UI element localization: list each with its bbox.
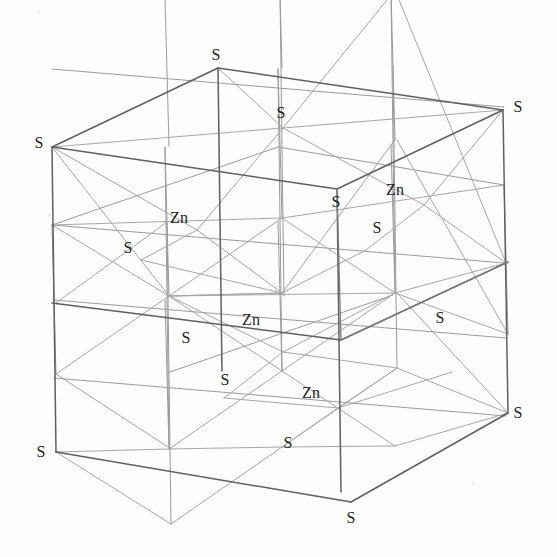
paper-speck — [130, 20, 132, 22]
paper-speck — [415, 437, 417, 439]
atom-label-s-mid-front: S — [181, 330, 190, 346]
atom-label-zn-upper-right: Zn — [386, 182, 404, 198]
atom-label-s-mid-right: S — [435, 310, 444, 326]
atom-label-s-lower-left: S — [220, 372, 229, 388]
atom-label-s-top-center: S — [276, 105, 285, 121]
atom-label-zn-upper-left: Zn — [170, 210, 188, 226]
atom-label-s-mid-left: S — [123, 240, 132, 256]
atom-label-zn-center: Zn — [242, 312, 260, 328]
atom-label-s-bottom-left: S — [36, 444, 45, 460]
atom-label-s-top-right-front: S — [513, 99, 522, 115]
tetrahedral-bond-lines — [52, 0, 508, 524]
atom-label-s-bottom-front: S — [346, 510, 355, 526]
crystal-lattice-drawing — [0, 0, 557, 557]
mid-plane-emphasis-edges — [337, 189, 508, 340]
atom-label-s-top-back: S — [211, 47, 220, 63]
atom-label-zn-lower: Zn — [302, 385, 320, 401]
paper-speck — [37, 11, 40, 14]
atom-label-s-bottom-right: S — [513, 405, 522, 421]
atom-label-s-mid-upper-right: S — [331, 194, 340, 210]
inner-lattice-lines — [52, 0, 508, 524]
atom-label-s-bottom-center: S — [283, 435, 292, 451]
paper-speck — [472, 482, 475, 485]
atom-label-s-inner-right: S — [372, 220, 381, 236]
atom-label-s-left-top-front: S — [34, 135, 43, 151]
paper-speck — [48, 214, 51, 217]
figure-canvas: SSSSSZnZnSSZnSSSZnSSSS — [0, 0, 557, 557]
